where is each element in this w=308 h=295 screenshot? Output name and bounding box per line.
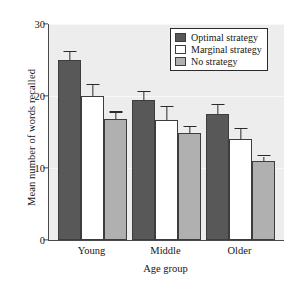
bar — [58, 60, 81, 240]
y-axis-title: Mean number of words recalled — [26, 38, 37, 238]
error-bar-cap — [109, 111, 122, 112]
legend-swatch-icon — [175, 33, 186, 42]
legend-swatch-icon — [175, 45, 186, 54]
error-bar — [217, 105, 218, 114]
bar — [229, 139, 252, 240]
bar — [206, 114, 229, 240]
legend-item: No strategy — [175, 56, 262, 67]
bar-group — [58, 24, 127, 240]
bar — [252, 161, 275, 240]
error-bar-cap — [257, 155, 270, 156]
error-bar — [92, 85, 93, 96]
bar — [81, 96, 104, 240]
legend-item: Optimal strategy — [175, 32, 262, 43]
bar-column — [132, 24, 155, 240]
bar — [132, 100, 155, 240]
error-bar — [263, 157, 264, 161]
bar — [178, 133, 201, 240]
bar-column — [104, 24, 127, 240]
error-bar — [240, 129, 241, 139]
x-tick-label-older: Older — [195, 245, 285, 256]
error-bar-cap — [160, 106, 173, 107]
y-tick-label: 10 — [5, 163, 45, 174]
error-bar-cap — [63, 51, 76, 52]
chart-legend: Optimal strategyMarginal strategyNo stra… — [170, 28, 268, 71]
error-bar — [69, 52, 70, 60]
x-axis-title: Age group — [48, 263, 283, 274]
legend-label: Marginal strategy — [191, 44, 262, 55]
error-bar-cap — [86, 84, 99, 85]
legend-label: Optimal strategy — [191, 32, 258, 43]
bar-column — [58, 24, 81, 240]
error-bar — [143, 92, 144, 99]
legend-label: No strategy — [191, 56, 237, 67]
y-tick-label: 0 — [5, 235, 45, 246]
bar-column — [81, 24, 104, 240]
bar-chart-figure: Mean number of words recalled 0102030 Yo… — [0, 0, 308, 295]
bar — [104, 119, 127, 240]
error-bar-cap — [183, 126, 196, 127]
y-tick-label: 20 — [5, 91, 45, 102]
error-bar — [189, 127, 190, 133]
bar — [155, 120, 178, 240]
error-bar — [166, 107, 167, 120]
error-bar — [115, 113, 116, 119]
legend-item: Marginal strategy — [175, 44, 262, 55]
legend-swatch-icon — [175, 57, 186, 66]
y-tick-label: 30 — [5, 19, 45, 30]
error-bar-cap — [211, 104, 224, 105]
error-bar-cap — [234, 128, 247, 129]
error-bar-cap — [137, 91, 150, 92]
